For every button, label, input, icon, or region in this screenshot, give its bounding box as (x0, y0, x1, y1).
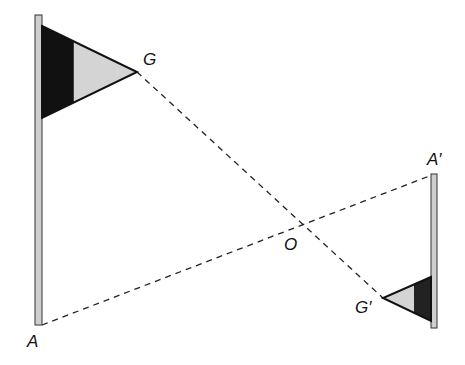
diagram-canvas (0, 0, 465, 365)
ray-g-to-g-prime (137, 72, 383, 298)
left-flag (42, 26, 137, 118)
label-a-prime: A′ (427, 150, 442, 170)
ray-a-to-a-prime (42, 175, 432, 325)
pinhole-diagram: G A A′ G′ O (0, 0, 465, 365)
label-g-prime: G′ (355, 298, 371, 318)
label-o: O (284, 235, 297, 255)
label-g: G (143, 50, 156, 70)
label-a: A (27, 332, 38, 352)
right-flag (383, 277, 431, 321)
left-pole (35, 15, 42, 325)
